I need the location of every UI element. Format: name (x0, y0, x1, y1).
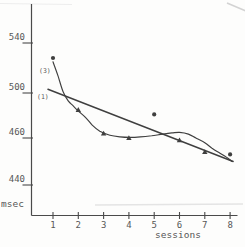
data-point-session-1 (51, 56, 55, 60)
x-axis-label: sessions (155, 229, 201, 240)
x-tick-label-1: 1 (50, 220, 55, 230)
x-tick-label-6: 6 (177, 220, 182, 230)
y-tick-label-460: 460 (9, 127, 25, 137)
x-tick-label-2: 2 (76, 220, 81, 230)
data-point-session-3 (101, 131, 106, 136)
x-tick-label-7: 7 (202, 220, 207, 230)
x-tick-label-4: 4 (126, 220, 131, 230)
data-point-session-8 (228, 152, 232, 156)
x-tick-label-8: 8 (227, 220, 232, 230)
x-tick-label-3: 3 (101, 220, 106, 230)
data-point-session-5 (152, 112, 156, 116)
y-tick-label-540: 540 (9, 32, 25, 42)
chart-canvas: 540500460440msec12345678sessions(1)(3) (0, 0, 245, 247)
curve-label-3: (3) (39, 67, 51, 75)
scan-artifact-top-right (227, 3, 245, 11)
y-tick-label-500: 500 (9, 82, 25, 92)
scan-artifact-above-axis (95, 204, 243, 205)
scanned-figure: 540500460440msec12345678sessions(1)(3) (0, 0, 245, 247)
y-tick-label-440: 440 (9, 174, 25, 184)
scan-artifact-top-left (0, 4, 72, 5)
curve-label-1: (1) (37, 93, 49, 101)
y-axis-unit-label: msec (1, 198, 24, 209)
x-tick-label-5: 5 (151, 220, 156, 230)
